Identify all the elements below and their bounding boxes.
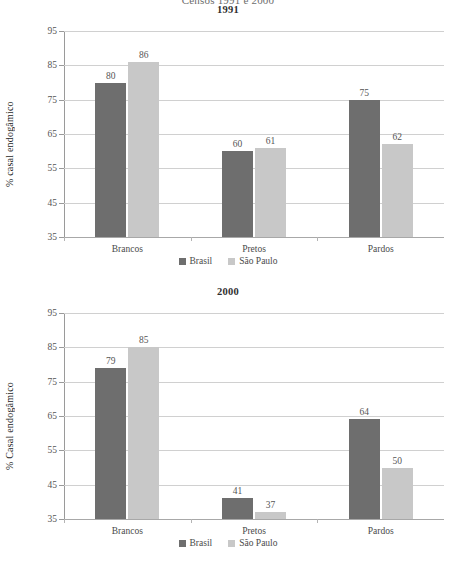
bar-value-label: 60: [233, 139, 243, 149]
legend-swatch-icon: [179, 258, 186, 265]
y-axis-tick-label: 65: [48, 129, 58, 139]
bar: 79: [95, 368, 126, 519]
x-axis-category-label: Brancos: [112, 244, 143, 254]
y-axis-tick-label: 65: [48, 411, 58, 421]
x-axis-category-separator: [317, 237, 318, 241]
y-axis-tick: [59, 168, 64, 169]
chart-title: 1991: [0, 4, 456, 15]
y-axis-label: % casal endogâmico: [4, 64, 18, 224]
x-axis-category-label: Pardos: [368, 244, 394, 254]
bar: 41: [222, 498, 253, 519]
bar-value-label: 64: [359, 407, 369, 417]
y-axis-tick-label: 85: [48, 342, 58, 352]
y-axis-tick-label: 75: [48, 377, 58, 387]
bar: 50: [382, 468, 413, 520]
y-axis-tick-label: 55: [48, 445, 58, 455]
legend-swatch-icon: [228, 258, 235, 265]
x-axis-category-label: Pretos: [242, 244, 266, 254]
bar-value-label: 75: [359, 88, 369, 98]
y-axis-tick: [59, 203, 64, 204]
legend-item[interactable]: São Paulo: [228, 538, 277, 548]
y-axis-tick: [59, 382, 64, 383]
y-axis-tick-label: 95: [48, 26, 58, 36]
bar-value-label: 62: [392, 132, 402, 142]
bar-value-label: 61: [266, 136, 276, 146]
y-axis-tick-label: 75: [48, 95, 58, 105]
x-axis-category-label: Pretos: [242, 526, 266, 536]
x-axis-origin-tick: [64, 519, 65, 523]
legend-item[interactable]: São Paulo: [228, 256, 277, 266]
bar: 61: [255, 148, 286, 237]
bar: 60: [222, 151, 253, 237]
y-axis-label: % Casal endogâmico: [4, 346, 18, 506]
y-axis-tick-label: 35: [48, 514, 58, 524]
bar-value-label: 86: [139, 50, 149, 60]
gridline: [64, 31, 444, 32]
x-axis-baseline: [64, 519, 444, 520]
y-axis-tick: [59, 31, 64, 32]
legend-item[interactable]: Brasil: [179, 256, 213, 266]
legend-item[interactable]: Brasil: [179, 538, 213, 548]
x-axis-category-separator: [191, 237, 192, 241]
y-axis-tick-label: 85: [48, 60, 58, 70]
y-axis-tick: [59, 485, 64, 486]
x-axis-origin-tick: [64, 237, 65, 241]
bar: 64: [349, 419, 380, 519]
plot-area: 958575655545358086Brancos6061Pretos7562P…: [64, 31, 444, 237]
legend-label: Brasil: [190, 256, 213, 266]
chart-title: 2000: [0, 286, 456, 297]
legend-label: São Paulo: [239, 256, 277, 266]
chart-legend: BrasilSão Paulo: [0, 538, 456, 548]
y-axis-tick: [59, 450, 64, 451]
gridline: [64, 347, 444, 348]
x-axis-category-label: Pardos: [368, 526, 394, 536]
bar: 62: [382, 144, 413, 237]
bar: 85: [128, 347, 159, 519]
bar: 86: [128, 62, 159, 237]
y-axis-tick: [59, 65, 64, 66]
bar: 80: [95, 83, 126, 238]
bar-value-label: 41: [233, 486, 243, 496]
y-axis-tick: [59, 100, 64, 101]
plot-area: 958575655545357985Brancos4137Pretos6450P…: [64, 313, 444, 519]
legend-swatch-icon: [228, 540, 235, 547]
bar: 37: [255, 512, 286, 519]
x-axis-category-separator: [317, 519, 318, 523]
bar-value-label: 50: [392, 456, 402, 466]
y-axis-tick: [59, 134, 64, 135]
bar-value-label: 80: [106, 71, 116, 81]
legend-label: Brasil: [190, 538, 213, 548]
y-axis-tick: [59, 416, 64, 417]
legend-label: São Paulo: [239, 538, 277, 548]
y-axis-tick: [59, 347, 64, 348]
chart-1991: 1991 % casal endogâmico 9585756555453580…: [0, 4, 456, 280]
y-axis-tick-label: 45: [48, 480, 58, 490]
y-axis-tick-label: 45: [48, 198, 58, 208]
bar: 75: [349, 100, 380, 237]
bar-value-label: 79: [106, 356, 116, 366]
x-axis-category-label: Brancos: [112, 526, 143, 536]
x-axis-category-separator: [191, 519, 192, 523]
y-axis-tick-label: 95: [48, 308, 58, 318]
gridline: [64, 313, 444, 314]
y-axis-tick-label: 55: [48, 163, 58, 173]
x-axis-baseline: [64, 237, 444, 238]
y-axis-tick-label: 35: [48, 232, 58, 242]
gridline: [64, 65, 444, 66]
y-axis-tick: [59, 313, 64, 314]
chart-legend: BrasilSão Paulo: [0, 256, 456, 266]
figure-page: Censos 1991 e 2000 1991 % casal endogâmi…: [0, 0, 456, 562]
bar-value-label: 85: [139, 335, 149, 345]
bar-value-label: 37: [266, 500, 276, 510]
chart-2000: 2000 % Casal endogâmico 9585756555453579…: [0, 286, 456, 562]
legend-swatch-icon: [179, 540, 186, 547]
